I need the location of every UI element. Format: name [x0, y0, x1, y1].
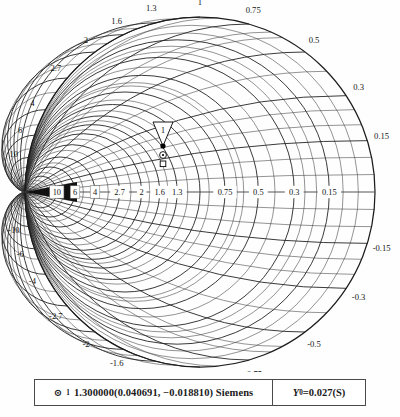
rim-tick-label: -4 [29, 276, 37, 286]
rim-tick-label: 1 [198, 0, 202, 7]
rim-tick-label: -0.75 [244, 369, 262, 372]
axis-tick-text: 0.15 [322, 188, 337, 197]
legend-bar: ⊙1 1.300000(0.040691, −0.018810) Siemens… [34, 379, 366, 406]
legend-marker-value: 1.300000(0.040691, −0.018810) Siemens [74, 387, 253, 398]
rim-tick-label: 0.5 [309, 35, 320, 45]
rim-tick-label: -2.7 [49, 311, 63, 321]
marker-point[interactable] [160, 143, 165, 148]
smith-chart-page: -1.3-1.6-2-2.7-4-6-10-1-0.75-0.5-0.3-0.1… [0, 0, 400, 417]
rim-tick-label: -6 [17, 249, 25, 259]
rim-tick-label: -1.3 [144, 371, 158, 372]
axis-tick-0.15: 0.15 [318, 186, 341, 198]
rim-tick-label: -2 [82, 339, 89, 349]
legend-marker-index: 1 [66, 389, 70, 397]
axis-tick-text: 6 [73, 188, 77, 197]
rim-tick-label: 2 [84, 35, 88, 45]
axis-tick-1.3: 1.3 [168, 186, 187, 198]
axis-tick-text: 10 [53, 188, 61, 197]
axis-tick-0.3: 0.3 [285, 186, 304, 198]
rim-tick-label: -0.3 [352, 292, 366, 302]
rim-tick-label: -0.5 [307, 339, 321, 349]
rim-tick-label: 10 [9, 149, 18, 159]
axis-tick-0.75: 0.75 [213, 186, 236, 198]
axis-tick-text: 2 [140, 188, 144, 197]
axis-tick-text: 2.7 [114, 188, 124, 197]
legend-normalization: Y0=0.027(S) [273, 380, 365, 405]
rim-tick-label: -0.15 [373, 243, 391, 253]
rim-tick-label: 4 [30, 98, 35, 108]
rim-tick-label: -1.6 [110, 358, 124, 368]
rim-tick-label: 2.7 [50, 63, 61, 73]
axis-tick-2: 2 [137, 186, 147, 198]
axis-tick-text: 0.75 [218, 188, 233, 197]
marker-flag-label: 1 [161, 126, 165, 135]
axis-tick-4: 4 [90, 186, 100, 198]
normalization-value: =0.027(S) [303, 387, 345, 398]
axis-tick-text: 0.3 [289, 188, 299, 197]
smith-chart-svg[interactable]: -1.3-1.6-2-2.7-4-6-10-1-0.75-0.5-0.3-0.1… [0, 0, 400, 372]
axis-tick-2.7: 2.7 [110, 186, 129, 198]
rim-tick-label: 1.3 [146, 3, 157, 13]
axis-tick-text: 0.5 [253, 188, 263, 197]
marker-square[interactable] [160, 161, 166, 167]
marker-circle-icon: ⊙ [54, 388, 62, 398]
rim-tick-label: 0.75 [246, 5, 261, 15]
axis-tick-0.5: 0.5 [249, 186, 268, 198]
axis-tick-1.6: 1.6 [150, 186, 169, 198]
rim-tick-label: 0.15 [374, 131, 389, 141]
axis-tick-10: 10 [50, 186, 64, 198]
rim-tick-label: -10 [8, 225, 19, 235]
smith-chart-plot[interactable]: -1.3-1.6-2-2.7-4-6-10-1-0.75-0.5-0.3-0.1… [0, 0, 400, 372]
axis-tick-6: 6 [70, 186, 80, 198]
rim-tick-label: 1.6 [111, 16, 122, 26]
marker-ring-center [162, 154, 164, 156]
rim-tick-label: 0.3 [353, 82, 364, 92]
rim-tick-label: 6 [18, 125, 23, 135]
legend-marker-readout[interactable]: ⊙1 1.300000(0.040691, −0.018810) Siemens [35, 380, 272, 405]
axis-tick-text: 1.6 [154, 188, 164, 197]
axis-tick-text: 1.3 [172, 188, 182, 197]
